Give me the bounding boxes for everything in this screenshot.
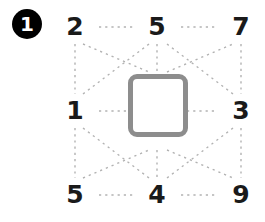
figure-canvas: 1	[0, 0, 265, 222]
lattice-node-top-left: 2	[58, 12, 92, 42]
lattice-node-bottom-left: 5	[58, 180, 92, 210]
guide-line-diag-br-down	[167, 150, 233, 178]
guide-line-diag-tr-up	[167, 44, 233, 72]
guide-line-diag-bl-up	[83, 150, 149, 178]
guide-line-diag-tl-down	[83, 44, 149, 72]
lattice-node-middle-left: 1	[58, 96, 92, 126]
lattice-node-bottom-right: 9	[224, 180, 258, 210]
center-focus-square	[128, 74, 188, 137]
lattice-node-top-right: 7	[224, 12, 258, 42]
lattice-node-top-center: 5	[140, 12, 174, 42]
lattice-node-bottom-center: 4	[140, 180, 174, 210]
lattice-node-middle-right: 3	[224, 96, 258, 126]
numeric-lattice: 2 5 7 1 3 5 4 9	[57, 6, 257, 216]
step-number-badge: 1	[12, 9, 42, 39]
